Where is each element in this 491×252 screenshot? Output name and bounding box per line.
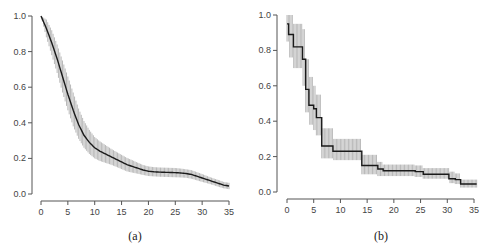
x-tick-label: 15: [362, 205, 372, 215]
x-tick-label: 20: [389, 205, 399, 215]
x-tick-label: 35: [469, 205, 479, 215]
figure: 0.00.20.40.60.81.0 05101520253035 (a) 0.…: [0, 0, 491, 252]
y-tick-label: 0.4: [258, 116, 271, 126]
y-tick-label: 1.0: [258, 10, 271, 20]
y-tick-label: 0.6: [258, 81, 271, 91]
x-tick-label: 15: [117, 207, 127, 217]
y-tick-label: 0.0: [258, 187, 271, 197]
x-tick-label: 5: [311, 205, 316, 215]
y-tick-label: 0.8: [258, 45, 271, 55]
x-tick-label: 30: [197, 207, 207, 217]
panel-b-y-axis: 0.00.20.40.60.81.0: [258, 10, 277, 197]
x-tick-label: 0: [284, 205, 289, 215]
panel-b-x-axis: 05101520253035: [284, 199, 479, 215]
x-tick-label: 25: [416, 205, 426, 215]
panel-a-confidence-bars: [41, 16, 229, 189]
panel-b-caption: (b): [374, 229, 388, 243]
y-tick-label: 0.6: [13, 82, 26, 92]
panel-b-confidence-bars: [287, 15, 477, 188]
panel-b-survival-curve: 0.00.20.40.60.81.0 05101520253035 (b): [258, 10, 479, 243]
y-tick-label: 0.4: [13, 118, 26, 128]
x-tick-label: 30: [442, 205, 452, 215]
x-tick-label: 35: [224, 207, 234, 217]
x-tick-label: 20: [143, 207, 153, 217]
y-tick-label: 0.8: [13, 47, 26, 57]
x-tick-label: 10: [90, 207, 100, 217]
y-tick-label: 0.2: [258, 152, 271, 162]
panel-a-y-axis: 0.00.20.40.60.81.0: [13, 11, 32, 199]
panel-a-survival-curve: 0.00.20.40.60.81.0 05101520253035 (a): [13, 11, 234, 243]
x-tick-label: 0: [38, 207, 43, 217]
panel-a-x-axis: 05101520253035: [38, 201, 234, 217]
panel-a-caption: (a): [128, 229, 141, 243]
y-tick-label: 1.0: [13, 11, 26, 21]
x-tick-label: 25: [170, 207, 180, 217]
panel-b-estimate-step: [287, 24, 477, 184]
x-tick-label: 5: [65, 207, 70, 217]
y-tick-label: 0.2: [13, 153, 26, 163]
y-tick-label: 0.0: [13, 189, 26, 199]
x-tick-label: 10: [335, 205, 345, 215]
